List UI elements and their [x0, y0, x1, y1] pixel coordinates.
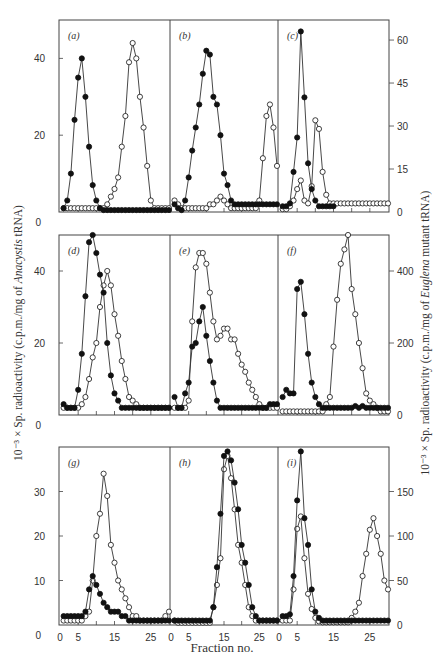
- filled-series-marker: [186, 380, 191, 385]
- open-series-marker: [86, 376, 91, 381]
- open-series-marker: [331, 344, 336, 349]
- open-series-marker: [112, 312, 117, 317]
- figure-row-1: 02040015304560(a)(b)(c): [34, 20, 409, 228]
- open-series-marker: [108, 283, 113, 288]
- open-series-marker: [116, 333, 121, 338]
- y-tick-label-left: 20: [34, 130, 46, 141]
- filled-series-marker: [287, 201, 292, 206]
- panel-label: (e): [179, 245, 191, 257]
- filled-series-marker: [214, 102, 219, 107]
- filled-series-line: [175, 451, 277, 620]
- filled-series-marker: [179, 405, 184, 410]
- y-tick-label-left: 10: [34, 576, 46, 587]
- filled-series-marker: [207, 358, 212, 363]
- filled-series-line: [64, 235, 169, 408]
- open-series-marker: [353, 609, 358, 614]
- filled-series-marker: [309, 186, 314, 191]
- filled-series-marker: [61, 206, 66, 211]
- open-series-marker: [123, 376, 128, 381]
- filled-series-marker: [200, 304, 205, 309]
- open-series-marker: [271, 125, 276, 130]
- filled-series-marker: [313, 198, 318, 203]
- x-axis-label: Fraction no.: [0, 640, 448, 656]
- open-series-marker: [385, 587, 390, 592]
- panel-label: (c): [287, 30, 299, 42]
- y-tick-label-right: 0: [397, 620, 403, 631]
- filled-series-marker: [86, 240, 91, 245]
- y-tick-label-right: 400: [397, 266, 414, 277]
- filled-series-marker: [221, 171, 226, 176]
- y-tick-label-left: 40: [34, 53, 46, 64]
- y-tick-label-left: 20: [34, 531, 46, 542]
- open-series-marker: [364, 391, 369, 396]
- y-axis-label-left: 10⁻³ × Sp. radioactivity (c.p.m./mg of A…: [11, 205, 25, 461]
- open-series-marker: [305, 591, 310, 596]
- filled-series-marker: [166, 207, 171, 212]
- open-series-marker: [94, 340, 99, 345]
- open-series-marker: [382, 578, 387, 583]
- panel-label: (g): [68, 457, 80, 469]
- open-series-marker: [207, 290, 212, 295]
- filled-series-marker: [200, 71, 205, 76]
- filled-series-marker: [214, 565, 219, 570]
- filled-series-marker: [105, 340, 110, 345]
- filled-series-marker: [207, 618, 212, 623]
- y-tick-label-left: 0: [35, 420, 41, 431]
- filled-series-marker: [239, 542, 244, 547]
- filled-series-marker: [86, 144, 91, 149]
- filled-series-marker: [116, 609, 121, 614]
- open-series-marker: [264, 113, 269, 118]
- filled-series-marker: [302, 95, 307, 100]
- filled-series-marker: [291, 169, 296, 174]
- filled-series-marker: [211, 380, 216, 385]
- open-series-line: [64, 43, 169, 208]
- filled-series-marker: [86, 587, 91, 592]
- filled-series-marker: [105, 605, 110, 610]
- open-series-marker: [119, 587, 124, 592]
- filled-series-marker: [298, 29, 303, 34]
- filled-series-marker: [183, 391, 188, 396]
- panel-f: (f): [280, 232, 391, 415]
- open-series-marker: [108, 542, 113, 547]
- open-series-marker: [316, 126, 321, 131]
- y-axis-label-right: 10⁻³ × Sp. radioactivity (c.p.m./mg of E…: [418, 191, 432, 476]
- filled-series-marker: [112, 391, 117, 396]
- open-series-marker: [105, 268, 110, 273]
- filled-series-marker: [298, 449, 303, 454]
- open-series-marker: [345, 232, 350, 237]
- open-series-marker: [148, 198, 153, 203]
- open-series-marker: [108, 194, 113, 199]
- open-series-marker: [375, 533, 380, 538]
- filled-series-marker: [291, 391, 296, 396]
- row-frame: [59, 20, 389, 212]
- open-series-marker: [141, 125, 146, 130]
- y-tick-label-right: 100: [397, 531, 414, 542]
- open-series-marker: [305, 201, 310, 206]
- filled-series-marker: [83, 609, 88, 614]
- open-series-marker: [119, 144, 124, 149]
- open-series-marker: [225, 326, 230, 331]
- panel-c: (c): [280, 29, 391, 212]
- filled-series-marker: [274, 202, 279, 207]
- open-series-marker: [232, 337, 237, 342]
- filled-series-marker: [291, 573, 296, 578]
- filled-series-marker: [166, 618, 171, 623]
- open-series-marker: [90, 355, 95, 360]
- filled-series-marker: [302, 312, 307, 317]
- filled-series-marker: [101, 290, 106, 295]
- filled-series-marker: [207, 52, 212, 57]
- filled-series-marker: [193, 125, 198, 130]
- filled-series-marker: [385, 618, 390, 623]
- panel-label: (a): [68, 30, 80, 42]
- open-series-marker: [218, 556, 223, 561]
- filled-series-marker: [190, 148, 195, 153]
- filled-series-marker: [225, 183, 230, 188]
- open-series-marker: [385, 201, 390, 206]
- open-series-marker: [338, 261, 343, 266]
- filled-series-marker: [183, 198, 188, 203]
- open-series-marker: [101, 471, 106, 476]
- filled-series-marker: [94, 250, 99, 255]
- filled-series-marker: [287, 612, 292, 617]
- panel-i: (i): [280, 449, 391, 625]
- filled-series-marker: [305, 351, 310, 356]
